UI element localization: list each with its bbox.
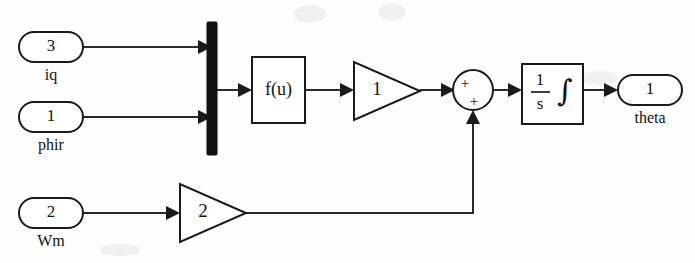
inport-wm[interactable]: 2 Wm: [19, 198, 83, 249]
inport-phir[interactable]: 1 phir: [19, 102, 83, 154]
sum-sign-bottom: +: [470, 93, 478, 109]
inport-wm-label: Wm: [37, 232, 65, 249]
outport-theta-label: theta: [634, 109, 665, 126]
inport-wm-number: 2: [47, 202, 56, 221]
inport-phir-number: 1: [47, 106, 56, 125]
mux-block[interactable]: [207, 22, 217, 155]
wire-fcn-to-gain-top: [305, 83, 354, 97]
wire-sum-to-integrator: [492, 83, 522, 97]
inport-iq[interactable]: 3 iq: [19, 32, 83, 84]
integrator-block[interactable]: 1 s ∫: [522, 64, 583, 124]
wire-wm-to-gain-bottom: [83, 206, 180, 220]
block-diagram-canvas: f(u) 1 + + 1 s ∫ 2 3: [0, 0, 695, 263]
integrator-denominator: s: [537, 94, 544, 113]
inport-iq-label: iq: [45, 66, 57, 84]
integral-symbol-icon: ∫: [557, 73, 573, 108]
gain-top-block[interactable]: 1: [354, 62, 420, 120]
wire-mux-to-fcn: [217, 83, 252, 97]
fcn-block-label: f(u): [265, 79, 292, 100]
sum-block[interactable]: + +: [453, 70, 493, 110]
fcn-block[interactable]: f(u): [252, 57, 305, 123]
diagram-svg: f(u) 1 + + 1 s ∫ 2 3: [0, 0, 695, 263]
wire-phir-to-mux: [83, 110, 212, 124]
wire-integrator-to-outport: [583, 83, 618, 97]
outport-theta-number: 1: [646, 79, 655, 98]
wire-gain-top-to-sum: [420, 83, 455, 97]
gain-top-label: 1: [372, 78, 382, 99]
wire-gain-bottom-to-sum: [245, 110, 480, 213]
sum-sign-top: +: [461, 75, 469, 91]
wire-iq-to-mux: [83, 40, 212, 54]
outport-theta[interactable]: 1 theta: [618, 75, 682, 126]
inport-iq-number: 3: [47, 36, 56, 55]
inport-phir-label: phir: [38, 136, 64, 154]
scan-artifacts: [100, 4, 618, 256]
gain-bottom-label: 2: [198, 200, 208, 221]
gain-bottom-block[interactable]: 2: [180, 184, 246, 242]
integrator-numerator: 1: [536, 70, 545, 89]
